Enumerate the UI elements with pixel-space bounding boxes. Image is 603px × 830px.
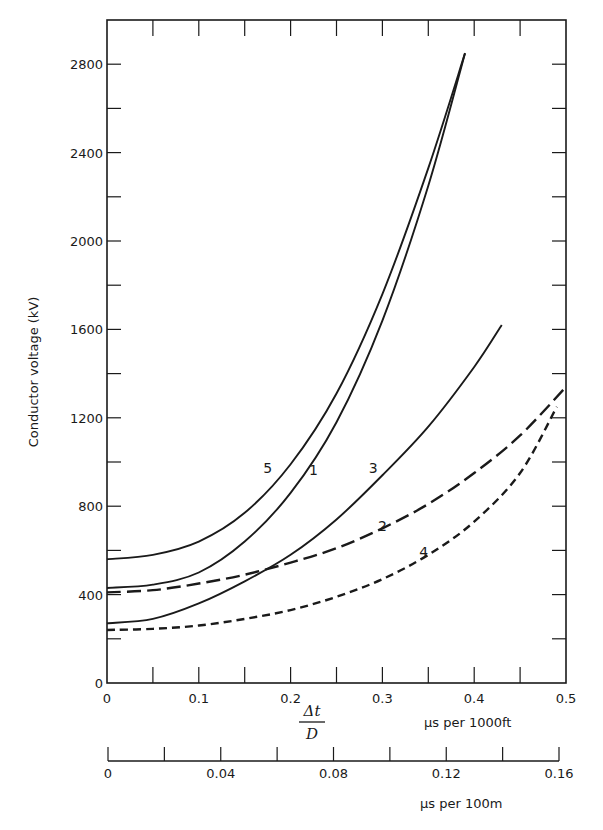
curve-2 <box>107 387 566 593</box>
y-axis-ticks: 040080012001600200024002800 <box>70 57 566 691</box>
secondary-tick-label: 0.08 <box>319 766 348 781</box>
secondary-x-axis: 00.040.080.120.16 <box>104 747 574 781</box>
curve-label-4: 4 <box>419 544 428 560</box>
curve-1 <box>107 53 465 588</box>
x-axis-units: µs per 1000ft <box>424 715 511 730</box>
curves <box>107 53 566 630</box>
y-tick-label: 2000 <box>70 234 103 249</box>
plot-border <box>107 20 566 683</box>
x-tick-label: 0.3 <box>372 691 393 706</box>
secondary-x-axis-units: µs per 100m <box>420 796 502 811</box>
chart: 040080012001600200024002800 00.10.20.30.… <box>0 0 603 830</box>
x-tick-label: 0.2 <box>280 691 301 706</box>
curve-label-5: 5 <box>263 460 272 476</box>
secondary-tick-label: 0.04 <box>206 766 235 781</box>
x-tick-label: 0.1 <box>188 691 209 706</box>
x-axis-title: Δt D <box>299 702 325 743</box>
y-tick-label: 2400 <box>70 146 103 161</box>
x-tick-label: 0.4 <box>464 691 485 706</box>
plot-frame <box>107 20 566 683</box>
curve-5 <box>107 53 465 559</box>
x-axis-ticks: 00.10.20.30.40.5 <box>103 20 576 706</box>
y-tick-label: 1600 <box>70 322 103 337</box>
secondary-tick-label: 0.12 <box>432 766 461 781</box>
x-tick-label: 0 <box>103 691 111 706</box>
y-tick-label: 800 <box>78 499 103 514</box>
x-tick-label: 0.5 <box>556 691 577 706</box>
y-tick-label: 2800 <box>70 57 103 72</box>
y-tick-label: 1200 <box>70 411 103 426</box>
curve-label-3: 3 <box>369 460 378 476</box>
secondary-tick-label: 0.16 <box>545 766 574 781</box>
x-axis-title-denominator: D <box>305 725 318 743</box>
y-tick-label: 0 <box>95 676 103 691</box>
curve-label-2: 2 <box>378 518 387 534</box>
curve-label-1: 1 <box>309 462 318 478</box>
secondary-tick-label: 0 <box>104 766 112 781</box>
curve-4 <box>107 407 557 630</box>
y-tick-label: 400 <box>78 588 103 603</box>
x-axis-title-numerator: Δt <box>303 702 322 720</box>
y-axis-title: Conductor voltage (kV) <box>26 297 41 448</box>
